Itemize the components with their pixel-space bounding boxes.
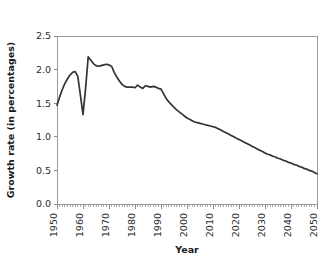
x-tick-label: 1990	[152, 213, 163, 237]
y-tick-label: 0.0	[36, 198, 51, 209]
x-tick-label: 2050	[308, 213, 319, 237]
x-tick-label: 2010	[204, 213, 215, 237]
x-tick-label: 2040	[282, 213, 293, 237]
chart-canvas: 0.00.51.01.52.02.5 195019601970198019902…	[0, 0, 336, 266]
x-tick-label: 1950	[48, 213, 59, 237]
x-tick-label: 2000	[178, 213, 189, 237]
x-tick-label: 1970	[100, 213, 111, 237]
y-tick-label: 1.5	[36, 98, 51, 109]
x-tick-label: 2020	[230, 213, 241, 237]
y-axis-title: Growth rate (in percentages)	[5, 42, 16, 198]
plot-area	[57, 36, 317, 204]
y-tick-label: 1.0	[36, 131, 51, 142]
x-tick-label: 1980	[126, 213, 137, 237]
x-tick-label: 1960	[74, 213, 85, 237]
growth-rate-chart: 0.00.51.01.52.02.5 195019601970198019902…	[0, 0, 336, 266]
y-tick-label: 2.0	[36, 64, 51, 75]
y-tick-label: 0.5	[36, 165, 51, 176]
x-axis-title: Year	[174, 244, 199, 255]
x-tick-label: 2030	[256, 213, 267, 237]
y-tick-label: 2.5	[36, 30, 51, 41]
